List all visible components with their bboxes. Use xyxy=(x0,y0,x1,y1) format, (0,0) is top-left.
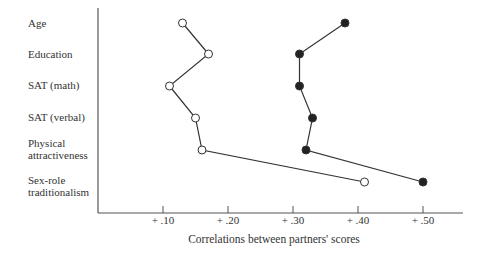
series-line xyxy=(300,23,424,182)
x-axis-label: Correlations between partners' scores xyxy=(0,233,488,245)
row-label-education: Education xyxy=(28,48,73,60)
filled-circle-marker xyxy=(302,146,310,154)
x-tick-label: + .10 xyxy=(152,214,175,226)
open-circle-marker xyxy=(166,82,174,90)
x-tick-label: + .40 xyxy=(347,214,370,226)
x-tick-label: + .30 xyxy=(282,214,305,226)
open-circle-marker xyxy=(205,50,213,58)
row-label-sex-role-traditionalism: Sex-role traditionalism xyxy=(28,174,89,198)
open-circle-marker xyxy=(192,114,200,122)
row-label-sat-verbal: SAT (verbal) xyxy=(28,111,85,123)
row-label-physical-attractiveness: Physical attractiveness xyxy=(28,137,88,161)
x-tick-label: + .50 xyxy=(412,214,435,226)
filled-circle-marker xyxy=(341,19,349,27)
filled-circle-marker xyxy=(309,114,317,122)
open-circle-marker xyxy=(198,146,206,154)
row-label-sat-math: SAT (math) xyxy=(28,79,79,91)
x-tick-label: + .20 xyxy=(217,214,240,226)
open-circle-marker xyxy=(361,178,369,186)
filled-circle-marker xyxy=(419,178,427,186)
open-circle-marker xyxy=(179,19,187,27)
filled-circle-marker xyxy=(296,50,304,58)
row-label-age: Age xyxy=(28,17,46,29)
filled-circle-marker xyxy=(296,82,304,90)
